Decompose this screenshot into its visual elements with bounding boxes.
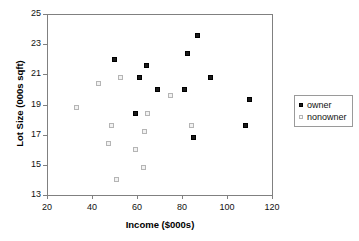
data-point-owner [247, 97, 252, 102]
x-axis-line [47, 195, 273, 196]
legend-label-nonowner: nonowner [307, 112, 347, 122]
owner-marker-icon [299, 103, 303, 107]
data-point-owner [195, 33, 200, 38]
data-point-owner [144, 63, 149, 68]
y-axis-tick-label: 13 [17, 190, 41, 199]
data-point-nonowner [168, 93, 173, 98]
plot-right-border [272, 14, 273, 196]
data-point-owner [112, 57, 117, 62]
data-point-nonowner [114, 177, 119, 182]
data-point-owner [137, 75, 142, 80]
data-point-owner [133, 111, 138, 116]
x-axis-tick [47, 195, 48, 199]
x-axis-tick-label: 100 [212, 202, 242, 212]
y-axis-tick-label: 25 [17, 9, 41, 18]
x-axis-tick [272, 195, 273, 199]
x-axis-tick [182, 195, 183, 199]
data-point-nonowner [74, 105, 79, 110]
data-point-owner [243, 123, 248, 128]
data-point-nonowner [141, 165, 146, 170]
data-point-nonowner [118, 75, 123, 80]
x-axis-tick-label: 60 [122, 202, 152, 212]
data-point-nonowner [109, 123, 114, 128]
data-point-nonowner [145, 111, 150, 116]
legend-label-owner: owner [307, 100, 332, 110]
x-axis-tick-label: 40 [77, 202, 107, 212]
x-axis-tick [92, 195, 93, 199]
x-axis-tick [137, 195, 138, 199]
data-point-owner [185, 51, 190, 56]
y-axis-title: Lot Size (000s sqft) [14, 29, 25, 179]
data-point-owner [182, 87, 187, 92]
x-axis-tick-label: 80 [167, 202, 197, 212]
x-axis-tick-label: 20 [32, 202, 62, 212]
legend-item-owner: owner [299, 99, 347, 111]
nonowner-marker-icon [299, 115, 303, 119]
data-point-nonowner [133, 147, 138, 152]
data-point-owner [191, 135, 196, 140]
x-axis-tick [227, 195, 228, 199]
data-point-owner [155, 87, 160, 92]
data-points-layer [47, 14, 272, 195]
x-axis-tick-label: 120 [257, 202, 287, 212]
legend-item-nonowner: nonowner [299, 111, 347, 123]
x-axis-title: Income ($000s) [47, 219, 273, 230]
data-point-nonowner [189, 123, 194, 128]
data-point-nonowner [106, 141, 111, 146]
scatter-chart: 13151719212325 20406080100120 Income ($0… [0, 0, 359, 241]
legend: owner nonowner [294, 95, 353, 127]
data-point-nonowner [142, 129, 147, 134]
data-point-owner [208, 75, 213, 80]
data-point-nonowner [96, 81, 101, 86]
